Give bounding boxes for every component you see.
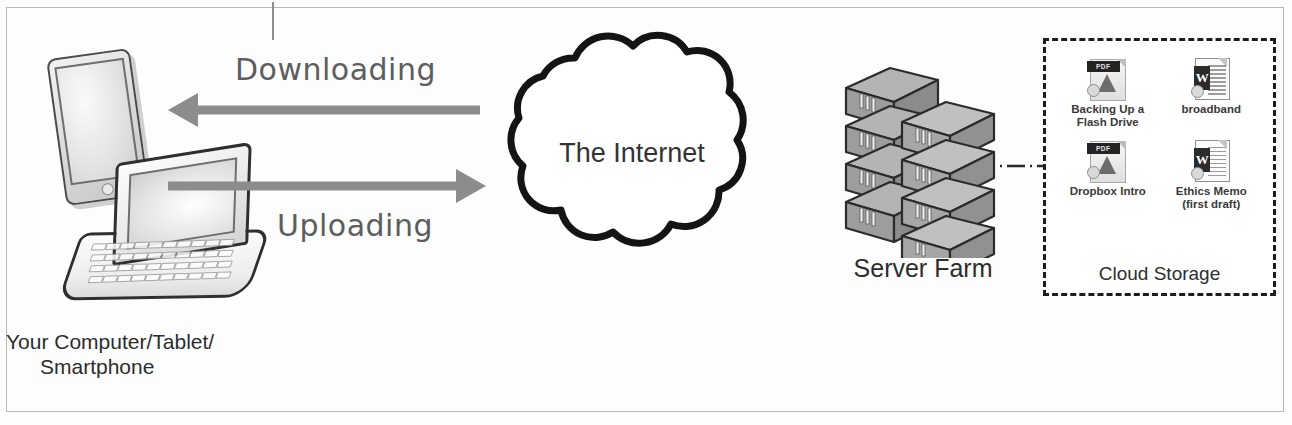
file-label: Ethics Memo (first draft): [1164, 185, 1258, 211]
downloading-label: Downloading: [235, 52, 436, 87]
arrow-shaft: [196, 106, 480, 115]
cloud-tick-mark: [272, 2, 274, 40]
cloud-storage-diagram: Your Computer/Tablet/ Smartphone Downloa…: [0, 0, 1292, 425]
pdf-badge: PDF: [1087, 143, 1120, 154]
file-item[interactable]: W broadband: [1160, 51, 1264, 129]
cloud-storage-label: Cloud Storage: [1046, 263, 1273, 285]
file-item[interactable]: W Ethics Memo (first draft): [1160, 133, 1264, 211]
uploading-arrow: [168, 168, 486, 204]
server-farm-label: Server Farm: [818, 254, 1028, 283]
file-label: Backing Up a Flash Drive: [1061, 103, 1155, 129]
server-farm-group: Server Farm: [838, 58, 1008, 308]
laptop-keyboard: [77, 238, 243, 287]
downloading-arrow: [168, 92, 480, 128]
file-item[interactable]: PDF Dropbox Intro: [1056, 133, 1160, 211]
cloud-storage-box: PDF Backing Up a Flash Drive W broadband…: [1043, 38, 1276, 296]
pdf-badge: PDF: [1087, 61, 1120, 72]
pdf-file-icon: PDF: [1085, 55, 1131, 101]
device-caption-line2: Smartphone: [40, 355, 276, 380]
word-file-icon: W: [1188, 55, 1234, 101]
device-caption-line1: Your Computer/Tablet/: [6, 330, 214, 353]
file-item[interactable]: PDF Backing Up a Flash Drive: [1056, 51, 1160, 129]
sync-badge-icon: [1191, 167, 1204, 180]
arrow-shaft: [168, 182, 458, 191]
arrow-head-left-icon: [168, 93, 198, 127]
file-grid: PDF Backing Up a Flash Drive W broadband…: [1056, 51, 1263, 211]
uploading-label: Uploading: [277, 208, 433, 243]
sync-badge-icon: [1087, 84, 1100, 97]
pdf-file-icon: PDF: [1085, 137, 1131, 183]
file-label: broadband: [1182, 103, 1241, 116]
server-rack-icon: [838, 58, 1008, 258]
sync-badge-icon: [1087, 166, 1100, 179]
device-caption: Your Computer/Tablet/ Smartphone: [6, 330, 276, 380]
file-label: Dropbox Intro: [1070, 185, 1146, 198]
cloud-label: The Internet: [467, 138, 797, 169]
internet-cloud: The Internet: [467, 18, 797, 303]
word-file-icon: W: [1188, 137, 1234, 183]
